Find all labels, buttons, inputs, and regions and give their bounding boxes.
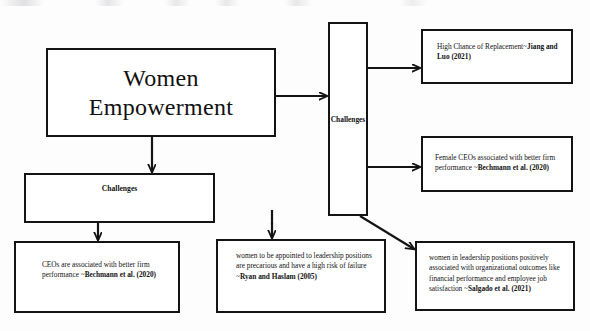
bottom-box-2-citation: Ryan and Haslam (2005) <box>240 272 317 281</box>
women-empowerment-box: Women Empowerment <box>46 48 276 137</box>
right-box-3-text: women in leadership positions positively… <box>429 253 569 294</box>
bottom-box-ceos-performance: CEOs are associated with better firm per… <box>14 241 180 313</box>
right-box-2-citation: Bechmann et al. (2020) <box>478 163 549 172</box>
diagram-canvas: Women Empowerment Challenges Challenges … <box>0 0 590 331</box>
right-box-female-ceos: Female CEOs associated with better firm … <box>421 136 573 192</box>
right-box-replacement: High Chance of Replacement~Jiang and Luo… <box>421 29 573 84</box>
left-challenges-box: Challenges <box>24 173 215 223</box>
right-box-2-text: Female CEOs associated with better firm … <box>435 153 567 174</box>
right-box-leadership-outcomes: women in leadership positions positively… <box>415 241 575 311</box>
bottom-box-precarious-positions: women to be appointed to leadership posi… <box>216 239 386 313</box>
bottom-box-2-text: women to be appointed to leadership posi… <box>236 251 374 282</box>
bottom-box-1-citation: Bechmann et al. (2020) <box>85 270 156 279</box>
right-box-3-citation: Salgado et al. (2021) <box>468 284 531 293</box>
title-line-2: Empowerment <box>89 93 234 121</box>
right-box-1-text: High Chance of Replacement~Jiang and Luo… <box>437 42 565 63</box>
right-box-1-body: High Chance of Replacement~ <box>437 42 527 51</box>
women-empowerment-label: Women Empowerment <box>48 50 274 135</box>
center-challenges-box: Challenges <box>328 22 368 216</box>
left-challenges-label: Challenges <box>26 175 213 221</box>
bottom-box-1-text: CEOs are associated with better firm per… <box>42 260 172 281</box>
center-challenges-label: Challenges <box>330 24 366 214</box>
title-line-1: Women <box>89 64 234 92</box>
scan-artifact <box>0 0 590 6</box>
